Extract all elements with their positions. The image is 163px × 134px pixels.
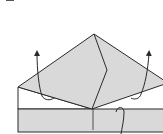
base-strip — [18, 109, 163, 132]
origami-diagram — [0, 0, 163, 134]
